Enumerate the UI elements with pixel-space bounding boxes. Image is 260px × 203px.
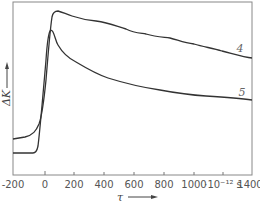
curve-4-label: 4 — [236, 42, 244, 55]
y-axis-arrowhead-icon — [5, 62, 9, 69]
tick-label: 600 — [124, 179, 143, 190]
x-axis-title: τ — [117, 191, 158, 203]
x-tick-labels: -200 0 200 400 600 800 1000 ·10⁻¹² s 140… — [2, 179, 260, 190]
curve-5-label: 5 — [239, 86, 246, 99]
tick-label: 200 — [64, 179, 83, 190]
y-axis-symbol: ΔK — [0, 89, 13, 107]
y-axis-title: ΔK — [0, 62, 13, 107]
tick-label: ·10⁻¹² s — [204, 179, 242, 190]
chart: -200 0 200 400 600 800 1000 ·10⁻¹² s 140… — [0, 0, 260, 203]
curve-4 — [13, 11, 252, 139]
tick-label: 0 — [42, 179, 48, 190]
x-axis-symbol: τ — [117, 191, 124, 203]
tick-label: 400 — [94, 179, 113, 190]
x-ticks — [45, 171, 223, 175]
tick-label: 1000 — [181, 179, 206, 190]
tick-label: 800 — [154, 179, 173, 190]
x-axis-arrowhead-icon — [151, 195, 158, 199]
tick-label: -200 — [2, 179, 25, 190]
tick-label: 1400 — [237, 179, 260, 190]
plot-frame — [13, 2, 252, 175]
